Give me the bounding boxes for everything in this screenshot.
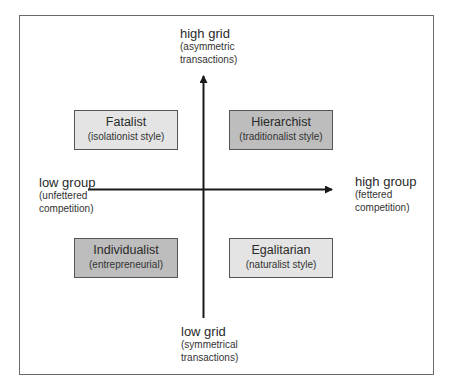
low-group-title: low group [39, 175, 95, 190]
high-group-label: high group (fettered competition) [355, 174, 416, 214]
low-grid-label: low grid (symmetrical transactions) [181, 324, 238, 364]
quadrant-fatalist: Fatalist (isolationist style) [74, 110, 178, 150]
high-grid-label: high grid (asymmetric transactions) [180, 26, 237, 66]
high-grid-title: high grid [180, 26, 237, 41]
low-group-label: low group (unfettered competition) [39, 175, 95, 215]
quadrant-hierarchist: Hierarchist (traditionalist style) [229, 110, 333, 150]
quadrant-individualist: Individualist (entrepreneurial) [74, 238, 178, 278]
high-group-title: high group [355, 174, 416, 189]
quadrant-egalitarian: Egalitarian (naturalist style) [229, 238, 333, 278]
low-grid-title: low grid [181, 324, 238, 339]
